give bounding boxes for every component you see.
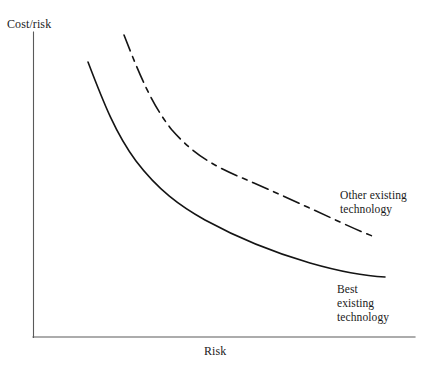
curve-other-existing-technology xyxy=(124,35,375,237)
annotation-other-existing-technology: Other existing technology xyxy=(340,188,407,216)
cost-risk-chart: Cost/risk Risk Other existing technology… xyxy=(0,0,433,373)
x-axis-label: Risk xyxy=(204,344,226,359)
annotation-best-existing-technology: Best existing technology xyxy=(337,282,389,324)
y-axis-label: Cost/risk xyxy=(7,17,51,32)
curve-best-existing-technology xyxy=(88,62,385,277)
